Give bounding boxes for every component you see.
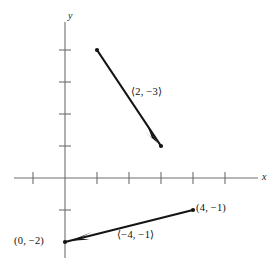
vector-1-group (95, 48, 163, 148)
x-axis-label: x (262, 172, 266, 182)
vector-1-label: ⟨2, −3⟩ (131, 87, 162, 98)
point-4-neg1-label: (4, −1) (196, 203, 226, 214)
vector-2-label: ⟨−4, −1⟩ (117, 230, 154, 241)
vector-1-head-dot (159, 144, 163, 148)
y-axis-label: y (68, 11, 72, 21)
coordinate-plane-svg (0, 0, 279, 265)
vector-1-tail-dot (95, 48, 99, 52)
vector-2-tail-dot (191, 208, 195, 212)
vector-1-shaft (97, 50, 161, 146)
point-0-neg2-label: (0, −2) (14, 236, 44, 247)
vector-diagram-figure: y x ⟨2, −3⟩ ⟨−4, −1⟩ (4, −1) (0, −2) (0, 0, 279, 265)
vector-1-arrowhead (145, 127, 157, 143)
vector-2-head-dot (63, 240, 67, 244)
